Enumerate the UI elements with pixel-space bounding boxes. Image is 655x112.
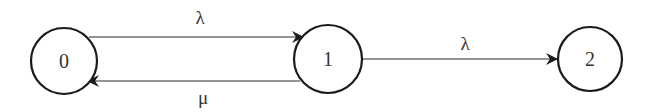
edge-label-1-to-2: λ [460, 33, 470, 54]
node-label-1: 1 [323, 48, 333, 70]
node-label-2: 2 [585, 48, 595, 70]
edge-0-to-1: λ [89, 7, 303, 37]
state-diagram: λ μ λ 0 1 2 [0, 0, 655, 112]
edge-label-1-to-0: μ [198, 87, 208, 108]
state-node-1: 1 [294, 25, 362, 93]
state-node-0: 0 [31, 28, 97, 94]
node-label-0: 0 [59, 50, 69, 72]
edge-1-to-0: μ [88, 81, 300, 108]
edge-1-to-2: λ [362, 33, 557, 59]
edge-label-0-to-1: λ [195, 7, 205, 28]
state-node-2: 2 [558, 27, 622, 91]
